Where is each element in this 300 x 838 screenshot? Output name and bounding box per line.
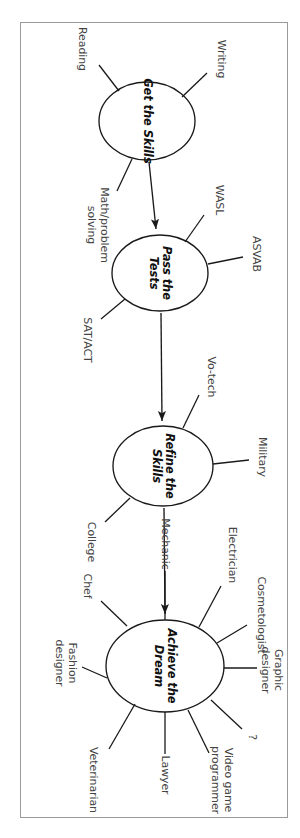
arrow-skills-to-tests <box>149 162 156 229</box>
spoke-line-satact <box>101 299 125 319</box>
spoke-label-video-game-programmer: Video game programmer <box>209 746 234 814</box>
arrow-tests-to-refine <box>161 313 162 421</box>
spoke-label-electrician: Electrician <box>226 527 239 583</box>
spoke-line-asvab <box>208 257 243 264</box>
spoke-label-college: College <box>85 522 98 562</box>
spoke-label-fashion-designer: Fashion designer <box>53 640 78 687</box>
spoke-label-sat-act: SAT/ACT <box>81 317 94 362</box>
spoke-label-cosmetologist: Cosmetologist <box>255 576 268 653</box>
node-label-pass-the-tests: Pass the Tests <box>147 246 173 300</box>
spoke-line-fashion <box>82 667 107 678</box>
spoke-label-asvab: ASVAB <box>250 236 263 272</box>
spoke-label-chef: Chef <box>81 574 94 599</box>
spoke-line-reading <box>99 65 119 91</box>
spoke-line-videogame <box>188 710 209 753</box>
spoke-line-wasl <box>185 215 204 242</box>
spoke-label-vo-tech: Vo-tech <box>205 357 218 398</box>
spoke-label-graphic-designer: Graphic designer <box>259 647 284 694</box>
spoke-line-chef <box>101 601 127 626</box>
node-label-achieve-the-dream: Achieve the Dream <box>152 629 178 704</box>
node-label-refine-the-skills: Refine the Skills <box>150 433 176 499</box>
spoke-line-votech <box>183 395 199 428</box>
spoke-line-veterinarian <box>109 704 135 749</box>
spoke-line-cosmetologist <box>217 625 247 643</box>
spoke-label-writing: Writing <box>215 40 228 79</box>
rotated-diagram-wrapper: Get the Skills Pass the Tests Refine the… <box>21 23 287 817</box>
spoke-line-unknown <box>211 700 242 729</box>
spoke-label-math-problem-solving: Math/problem solving <box>85 187 110 263</box>
spoke-label-reading: Reading <box>76 27 89 71</box>
spoke-label-lawyer: Lawyer <box>159 755 172 794</box>
spoke-label-wasl: WASL <box>213 185 226 216</box>
spoke-line-college <box>105 498 130 522</box>
spoke-label-military: Military <box>256 437 269 477</box>
spoke-line-math <box>117 159 132 191</box>
spoke-label-unknown: ? <box>246 734 259 740</box>
spoke-line-electrician <box>199 586 221 627</box>
node-label-get-the-skills: Get the Skills <box>141 78 154 163</box>
page-border-frame: Get the Skills Pass the Tests Refine the… <box>20 22 288 818</box>
diagram-canvas: Get the Skills Pass the Tests Refine the… <box>21 23 287 817</box>
spoke-line-military <box>213 460 249 464</box>
spoke-label-mechanic: Mechanic <box>159 518 172 569</box>
page-root: Get the Skills Pass the Tests Refine the… <box>0 0 300 838</box>
spoke-label-veterinarian: Veterinarian <box>87 747 100 813</box>
spoke-line-writing <box>182 73 207 97</box>
